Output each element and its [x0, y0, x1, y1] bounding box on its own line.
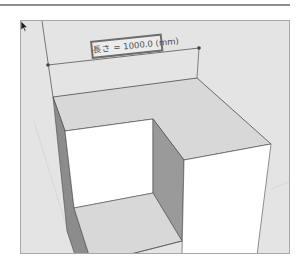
model-canvas[interactable]: [21, 21, 290, 254]
top-divider: [0, 4, 290, 6]
inner-back-face[interactable]: [65, 119, 153, 208]
front-face[interactable]: [182, 144, 271, 254]
dimension-endpoint-end[interactable]: [197, 46, 201, 50]
dimension-endpoint-start[interactable]: [46, 63, 50, 67]
arrow-pointer-icon: [21, 21, 29, 32]
3d-modeling-viewport[interactable]: 長さ = 1000.0 (mm): [20, 20, 290, 254]
